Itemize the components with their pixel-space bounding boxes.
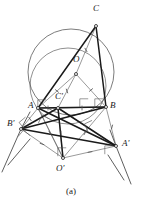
tick-B-Ap <box>111 125 112 129</box>
ray-left-lower <box>8 139 30 165</box>
side-CB <box>96 26 106 107</box>
point-label-op: O' <box>56 164 64 173</box>
figure-caption: (a) <box>0 186 142 196</box>
vertex-point-cp <box>57 107 60 110</box>
side-CA <box>38 26 96 108</box>
vertex-point-o <box>75 73 78 76</box>
extension-ray-group <box>2 112 131 184</box>
ra-mid-left <box>38 115 49 126</box>
tick-Op-Ap <box>88 152 92 153</box>
point-label-o: O <box>73 55 80 64</box>
point-label-a: A <box>28 101 34 110</box>
ray-through-Bp-down-left <box>2 129 21 172</box>
arc-lower-A-B <box>30 48 106 124</box>
point-label-bp: B' <box>7 119 14 128</box>
thick-segment-group <box>21 26 116 158</box>
vertex-point-op <box>62 157 65 160</box>
vertex-point-bp <box>20 128 23 131</box>
ray-through-Ap-down-right <box>116 146 131 184</box>
vertex-point-a <box>37 107 40 110</box>
point-label-cp: C' <box>55 92 63 101</box>
seg-B-Bp <box>21 107 106 129</box>
ra-at-Cp <box>80 99 88 107</box>
vertex-point-ap <box>115 145 118 148</box>
vertex-point-c <box>95 25 98 28</box>
vertex-point-b <box>105 106 108 109</box>
seg-Cp-Op <box>58 108 63 158</box>
point-label-ap: A' <box>122 139 129 148</box>
ray-right-lower <box>108 155 124 180</box>
point-label-b: B <box>110 101 116 110</box>
seg-A-Ap <box>38 108 116 146</box>
geometry-figure: COC'ABB'A'O' (a) <box>0 0 142 208</box>
point-label-c: C <box>93 4 99 13</box>
geometry-canvas <box>0 0 142 208</box>
